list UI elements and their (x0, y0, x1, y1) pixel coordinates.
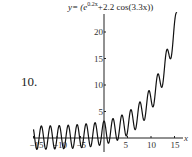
x-axis-label: x (183, 133, 188, 143)
function-plot: −15−10−5510155101520 x (0, 0, 192, 157)
x-tick-label: 10 (147, 140, 157, 150)
x-tick-label: 15 (171, 140, 181, 150)
y-tick-label: 5 (99, 107, 104, 117)
x-tick-label: −5 (77, 140, 87, 150)
y-tick-label: 20 (94, 27, 104, 37)
y-tick-label: 10 (94, 80, 104, 90)
x-tick-label: 5 (124, 140, 129, 150)
function-curve (34, 13, 177, 150)
y-tick-label: 15 (94, 54, 104, 64)
